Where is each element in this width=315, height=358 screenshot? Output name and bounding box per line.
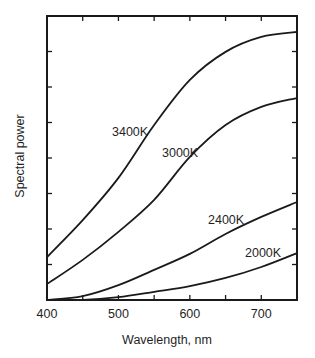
y-axis-label: Spectral power (13, 114, 27, 197)
spectral-power-chart: 400500600700 3400K3000K2400K2000K Wavele… (0, 0, 315, 358)
x-tick-labels: 400500600700 (37, 307, 272, 321)
x-tick-label: 500 (108, 307, 129, 321)
x-tick-label: 600 (179, 307, 200, 321)
x-tick-label: 400 (37, 307, 58, 321)
x-tick-label: 700 (251, 307, 272, 321)
curve-label-2400k: 2400K (208, 213, 245, 227)
curve-2000k (47, 253, 297, 300)
curve-label-3400k: 3400K (112, 125, 149, 139)
curve-labels: 3400K3000K2400K2000K (112, 125, 282, 260)
x-axis-label: Wavelength, nm (122, 333, 212, 347)
curve-3400k (47, 32, 297, 257)
curve-label-2000k: 2000K (245, 246, 282, 260)
curve-label-3000k: 3000K (162, 146, 199, 160)
